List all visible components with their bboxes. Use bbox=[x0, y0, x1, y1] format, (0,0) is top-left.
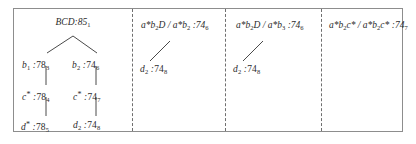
edge-rule2-child bbox=[150, 41, 170, 61]
node-c-right-index: 7 bbox=[97, 96, 100, 103]
rule2-child-sub: 2 bbox=[145, 68, 148, 75]
tree-node-b1: b1 :783 bbox=[22, 60, 49, 71]
tree-node-d-right: d2 :748 bbox=[73, 120, 100, 131]
rule2-child-index: 8 bbox=[164, 68, 167, 75]
tree-node-b2: b2 :746 bbox=[72, 60, 99, 71]
tree-node-c-right: c* :747 bbox=[73, 90, 101, 103]
panel-tree: BCD:851 b1 :783 b2 :746 c* :784 c* :747 bbox=[14, 9, 132, 131]
rule4-slash: / bbox=[358, 20, 361, 30]
panel-rule-2: a*b2D / a*b2 :746 d2 :748 bbox=[132, 9, 225, 131]
node-b1-value: 78 bbox=[36, 60, 46, 70]
rule3-child-node: d2 :748 bbox=[233, 64, 260, 75]
node-b1-sub: 1 bbox=[27, 64, 30, 71]
edge-root-b2 bbox=[73, 36, 97, 53]
edge-root-b1 bbox=[47, 36, 73, 53]
node-d-right-sub: 2 bbox=[78, 124, 81, 131]
edge-rule3-child bbox=[243, 41, 263, 61]
node-c-left-index: 4 bbox=[46, 96, 49, 103]
panel-rule-3: a*b2D / a*b3 :746 d2 :748 bbox=[225, 9, 321, 131]
rule4-den-tail: c* bbox=[380, 20, 389, 30]
node-b2-value: 74 bbox=[86, 60, 96, 70]
rule2-child-node: d2 :748 bbox=[140, 64, 167, 75]
node-d-left-star: * bbox=[26, 120, 30, 129]
node-c-left-value: 78 bbox=[36, 92, 46, 102]
rule4-num-tail: c* bbox=[347, 20, 356, 30]
node-d-right-value: 74 bbox=[87, 120, 97, 130]
rule4-num: a*b bbox=[329, 20, 343, 30]
rule4-den: a*b bbox=[363, 20, 377, 30]
rule2-child-value: 74 bbox=[154, 64, 164, 74]
tree-edges bbox=[14, 9, 132, 133]
node-c-right-value: 74 bbox=[87, 92, 97, 102]
node-d-left-index: 5 bbox=[46, 126, 49, 133]
node-b2-sub: 2 bbox=[77, 64, 80, 71]
node-d-right-index: 8 bbox=[97, 124, 100, 131]
rule4-index: 7 bbox=[404, 24, 407, 31]
figure-box: BCD:851 b1 :783 b2 :746 c* :784 c* :747 bbox=[13, 8, 403, 132]
rule4-value: 74 bbox=[395, 20, 405, 30]
rule3-child-value: 74 bbox=[247, 64, 257, 74]
rule-header-4: a*b2c* / a*b2c* :747 bbox=[329, 20, 408, 31]
tree-node-c-left: c* :784 bbox=[22, 90, 50, 103]
node-b1-index: 3 bbox=[46, 64, 49, 71]
node-d-left-value: 78 bbox=[36, 122, 46, 132]
tree-node-d-left: d* :785 bbox=[21, 120, 49, 133]
rule3-child-sub: 2 bbox=[238, 68, 241, 75]
node-b2-index: 6 bbox=[96, 64, 99, 71]
node-c-right-star: * bbox=[77, 90, 81, 99]
node-c-left-star: * bbox=[26, 90, 30, 99]
rule3-child-index: 8 bbox=[257, 68, 260, 75]
panel-rule-4: a*b2c* / a*b2c* :747 bbox=[321, 9, 404, 131]
